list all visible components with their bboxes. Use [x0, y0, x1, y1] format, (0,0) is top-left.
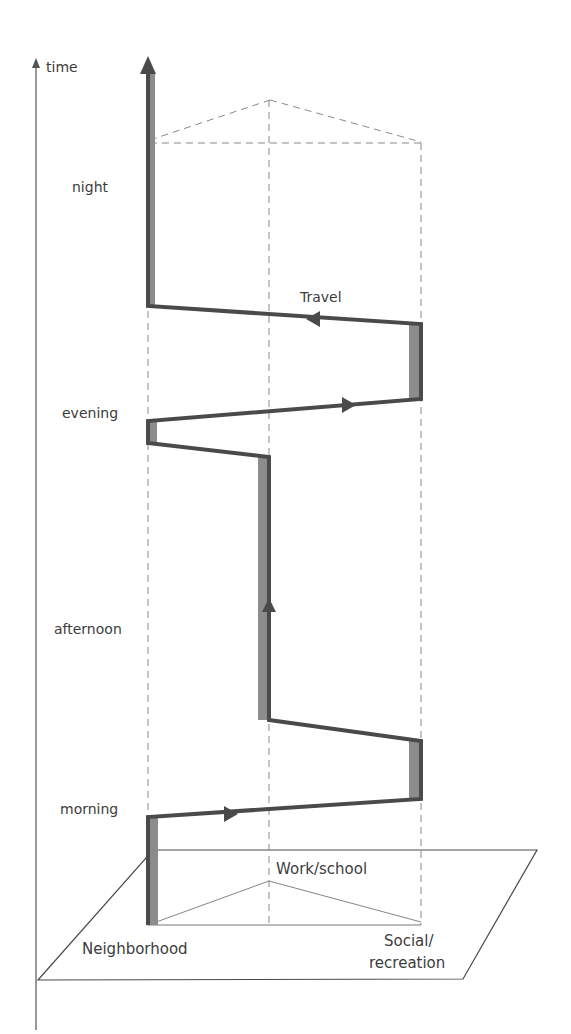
arrow-left-icon [306, 311, 320, 327]
period-afternoon: afternoon [54, 622, 122, 636]
location-neighborhood: Neighborhood [82, 942, 188, 957]
space-time-path [148, 70, 421, 925]
travel-label: Travel [300, 290, 342, 304]
time-axis-label: time [46, 60, 78, 74]
ground-triangle [148, 881, 421, 925]
location-recreation: recreation [369, 956, 445, 971]
period-evening: evening [62, 406, 118, 420]
arrow-right-icon [342, 397, 356, 413]
period-night: night [72, 180, 108, 194]
arrow-up-icon [140, 56, 156, 74]
time-axis [32, 58, 40, 1030]
location-work-school: Work/school [276, 862, 367, 877]
arrow-right-icon [224, 806, 238, 822]
period-morning: morning [60, 802, 118, 816]
direction-arrows [140, 56, 356, 822]
stay-bars [148, 72, 421, 925]
location-social: Social/ [384, 934, 434, 949]
space-time-diagram [0, 0, 571, 1034]
